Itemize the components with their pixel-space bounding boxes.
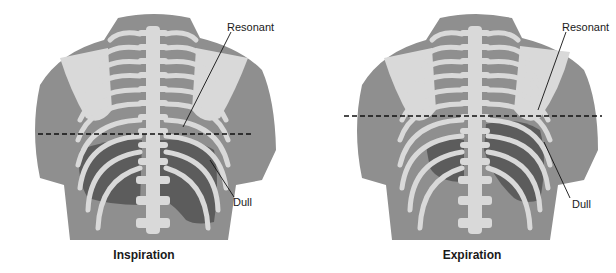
panel-expiration: Resonant Dull Expiration (308, 0, 616, 273)
resonant-label: Resonant (562, 21, 609, 33)
back-torso-expiration-illustration (308, 0, 616, 273)
caption-expiration: Expiration (412, 248, 532, 262)
dull-label: Dull (233, 196, 252, 208)
resonant-label: Resonant (227, 21, 274, 33)
caption-inspiration: Inspiration (84, 248, 204, 262)
dull-label: Dull (572, 198, 591, 210)
back-torso-inspiration-illustration (0, 0, 308, 273)
panel-inspiration: Resonant Dull Inspiration (0, 0, 308, 273)
